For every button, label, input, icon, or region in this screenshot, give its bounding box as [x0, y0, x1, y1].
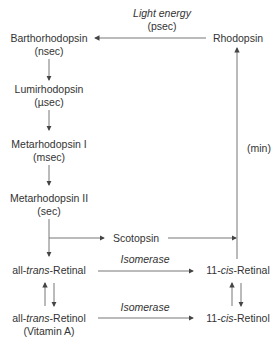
suffix: -Retinol [50, 312, 86, 324]
isomer: trans [26, 264, 49, 276]
prefix: all- [12, 264, 26, 276]
node-metarhodopsin-2: Metarhodopsin II [0, 192, 98, 205]
node-scotopsin: Scotopsin [106, 232, 166, 245]
metarhodopsin-2-time: (sec) [0, 205, 98, 218]
isomer: cis [221, 264, 234, 276]
regeneration-time-label: (min) [244, 142, 274, 155]
isomerase-retinol-label: Isomerase [100, 301, 190, 314]
suffix: -Retinal [50, 264, 86, 276]
light-time-label: (psec) [112, 20, 212, 33]
light-energy-label: Light energy [112, 7, 212, 20]
prefix: 11- [206, 264, 220, 276]
node-11-cis-retinal: 11-cis-Retinal [200, 264, 276, 277]
prefix: all- [12, 312, 26, 324]
suffix: -Retinol [234, 312, 270, 324]
vitamin-a-note: (Vitamin A) [0, 325, 98, 338]
isomer: cis [221, 312, 234, 324]
node-all-trans-retinol: all-trans-Retinol [0, 312, 98, 325]
suffix: -Retinal [234, 264, 270, 276]
isomerase-retinal-label: Isomerase [100, 253, 190, 266]
node-metarhodopsin-1: Metarhodopsin I [0, 138, 98, 151]
lumirhodopsin-time: (µsec) [0, 96, 98, 109]
node-all-trans-retinal: all-trans-Retinal [0, 264, 98, 277]
isomer: trans [26, 312, 49, 324]
node-rhodopsin: Rhodopsin [206, 32, 270, 45]
prefix: 11- [206, 312, 220, 324]
barthorhodopsin-time: (nsec) [0, 45, 98, 58]
node-11-cis-retinol: 11-cis-Retinol [200, 312, 276, 325]
metarhodopsin-1-time: (msec) [0, 151, 98, 164]
node-barthorhodopsin: Barthorhodopsin [0, 32, 98, 45]
node-lumirhodopsin: Lumirhodopsin [0, 83, 98, 96]
